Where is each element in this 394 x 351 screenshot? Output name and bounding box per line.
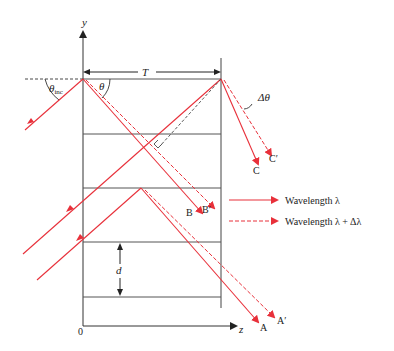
period-arrowhead-right xyxy=(214,69,221,75)
spacing-arrowhead-down xyxy=(117,289,123,296)
ray-lower-incoming xyxy=(37,188,141,280)
label-C: C xyxy=(253,165,260,176)
theta-inc-label: θinc xyxy=(49,82,63,96)
ray-to-B xyxy=(83,79,202,213)
right-angle-mark xyxy=(154,140,162,148)
legend: Wavelength λ Wavelength λ + Δλ xyxy=(229,195,361,227)
label-B: B xyxy=(186,207,193,218)
period-arrowhead-left xyxy=(83,69,90,75)
period-label: T xyxy=(142,66,149,78)
layer-lines xyxy=(83,79,221,297)
delta-theta-arc xyxy=(244,104,252,109)
label-B-prime: B′ xyxy=(202,204,211,215)
delta-theta-label: Δθ xyxy=(257,91,270,103)
ray-to-B-prime xyxy=(86,80,214,208)
legend-solid-label: Wavelength λ xyxy=(285,195,340,206)
z-axis-label: z xyxy=(238,323,244,335)
ray-to-C xyxy=(221,79,258,164)
label-C-prime: C′ xyxy=(269,153,278,164)
ray-to-A xyxy=(141,188,258,322)
y-axis-label: y xyxy=(81,16,87,28)
diffraction-diagram: y z 0 T d θinc θ B B′ C C′ Δθ xyxy=(0,0,394,351)
spacing-arrowhead-up xyxy=(117,243,123,250)
theta-label: θ xyxy=(99,80,105,92)
spacing-label: d xyxy=(116,264,122,276)
wavefront-dashed-line xyxy=(160,79,221,146)
legend-dashed-label: Wavelength λ + Δλ xyxy=(285,216,361,227)
origin-label: 0 xyxy=(78,326,83,337)
label-A: A xyxy=(260,322,268,333)
ray-upper-arrowhead xyxy=(66,205,74,212)
label-A-prime: A′ xyxy=(277,315,286,326)
